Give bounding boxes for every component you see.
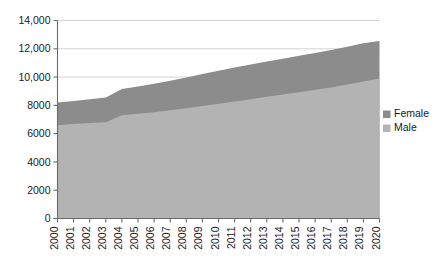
x-tick-label: 2014: [273, 226, 285, 250]
x-tick-label: 2004: [112, 226, 124, 250]
x-tick-label: 2005: [128, 226, 140, 250]
x-tick-label: 2000: [48, 226, 60, 250]
x-tick-label: 2017: [321, 226, 333, 250]
legend-swatch-female: [383, 111, 391, 119]
x-tick-label: 2011: [225, 226, 237, 249]
y-tick-labels: 0200040006000800010,00012,00014,000: [18, 14, 50, 224]
x-tick-label: 2012: [241, 226, 253, 250]
stacked-area-chart: 0200040006000800010,00012,00014,000 2000…: [0, 0, 444, 262]
x-tick-label: 2009: [192, 226, 204, 250]
y-tick-label: 2000: [27, 184, 51, 196]
x-tick-label: 2019: [353, 226, 365, 250]
x-tick-label: 2018: [337, 226, 349, 250]
y-tick-label: 12,000: [18, 42, 50, 54]
legend-swatch-male: [383, 125, 391, 133]
y-tick-marks: [54, 21, 58, 219]
chart-legend: FemaleMale: [383, 107, 429, 133]
y-tick-label: 6000: [27, 127, 51, 139]
y-tick-label: 10,000: [18, 71, 50, 83]
x-tick-label: 2010: [209, 226, 221, 250]
x-tick-label: 2008: [176, 226, 188, 250]
legend-label-male: Male: [394, 121, 417, 133]
y-tick-label: 4000: [27, 156, 51, 168]
y-tick-label: 0: [45, 212, 51, 224]
x-tick-label: 2001: [64, 226, 76, 250]
x-tick-marks: [58, 219, 380, 223]
y-tick-label: 14,000: [18, 14, 50, 26]
x-tick-label: 2006: [144, 226, 156, 250]
chart-canvas: 0200040006000800010,00012,00014,000 2000…: [0, 0, 444, 262]
x-tick-labels: 2000200120022003200420052006200720082009…: [48, 226, 382, 250]
y-tick-label: 8000: [27, 99, 51, 111]
x-tick-label: 2002: [80, 226, 92, 250]
x-tick-label: 2007: [160, 226, 172, 250]
x-tick-label: 2020: [370, 226, 382, 250]
x-tick-label: 2015: [289, 226, 301, 250]
x-tick-label: 2013: [257, 226, 269, 250]
x-tick-label: 2003: [96, 226, 108, 250]
x-tick-label: 2016: [305, 226, 317, 250]
stacked-areas: [58, 41, 380, 218]
legend-label-female: Female: [394, 107, 429, 119]
